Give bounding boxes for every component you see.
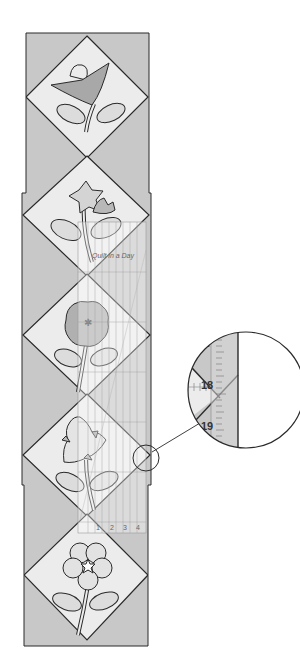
quilt-border-diagram: ✱	[0, 0, 300, 671]
svg-text:1: 1	[96, 524, 100, 531]
svg-text:4: 4	[136, 524, 140, 531]
ruler-brand: Quilt in a Day	[92, 252, 135, 260]
leader-line	[152, 420, 205, 452]
ruler-mark-19: 19	[201, 420, 213, 432]
ruler-mark-18: 18	[201, 379, 213, 391]
svg-text:3: 3	[123, 524, 127, 531]
svg-text:2: 2	[110, 524, 114, 531]
magnifier-inset: 17 18 19	[180, 320, 300, 460]
ruler-overlay: Quilt in a Day 1 2 3 4	[78, 222, 146, 533]
